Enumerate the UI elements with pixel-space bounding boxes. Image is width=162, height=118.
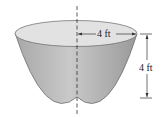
paraboloid-diagram [0,0,162,118]
height-label: 4 ft [139,62,153,73]
radius-label: 4 ft [97,28,111,39]
top-surface [15,21,137,47]
